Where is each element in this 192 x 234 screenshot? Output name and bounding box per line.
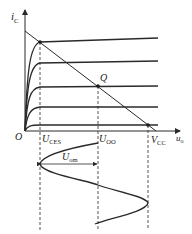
u-om-label: Uom bbox=[62, 151, 78, 163]
transistor-output-diagram: iC O uo UCES UOO VCC Q Uom bbox=[0, 0, 192, 234]
saturation-point bbox=[38, 40, 42, 44]
curve-3 bbox=[25, 86, 158, 131]
curve-2 bbox=[25, 61, 158, 131]
output-waveform bbox=[40, 143, 148, 224]
u-oo-label: UOO bbox=[99, 133, 116, 145]
u-ces-label: UCES bbox=[42, 133, 62, 145]
v-cc-label: VCC bbox=[151, 134, 166, 146]
curve-4 bbox=[25, 107, 158, 131]
load-line bbox=[25, 31, 156, 131]
y-axis-label: iC bbox=[11, 10, 19, 25]
guide-lines bbox=[40, 42, 148, 230]
x-axis-label: uo bbox=[176, 133, 184, 144]
curve-5 bbox=[25, 125, 158, 131]
cutoff-point bbox=[146, 123, 150, 127]
q-point bbox=[96, 84, 100, 88]
q-point-label: Q bbox=[100, 72, 108, 83]
origin-label: O bbox=[15, 131, 22, 142]
